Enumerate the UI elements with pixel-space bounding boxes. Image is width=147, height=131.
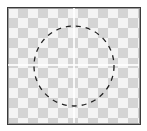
canvas-overlay: [0, 0, 147, 131]
